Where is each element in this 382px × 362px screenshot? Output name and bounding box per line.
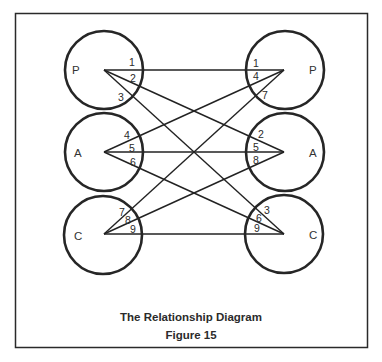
- right-number-7: 7: [262, 89, 268, 101]
- left-number-1: 1: [129, 56, 135, 68]
- right-number-1: 1: [253, 57, 259, 69]
- right-number-4: 4: [253, 70, 259, 82]
- left-number-6: 6: [130, 156, 136, 168]
- left-number-4: 4: [124, 129, 130, 141]
- right-node-P: P 1 4 7: [246, 31, 324, 109]
- left-node-label-C: C: [74, 230, 82, 242]
- left-number-9: 9: [130, 223, 136, 235]
- right-node-label-C: C: [309, 229, 317, 241]
- left-node-C: C 7 8 9: [64, 196, 142, 274]
- right-number-5: 5: [253, 141, 259, 153]
- figure-number: Figure 15: [0, 329, 382, 341]
- right-number-3: 3: [264, 204, 270, 216]
- relationship-diagram: P 1 2 3 A 4 5 6 C 7 8 9 P 1 4 7 A 2 5 8 …: [0, 0, 382, 362]
- right-number-8: 8: [253, 154, 259, 166]
- right-number-9: 9: [254, 222, 260, 234]
- diagram-title: The Relationship Diagram: [0, 311, 382, 323]
- left-number-5: 5: [129, 142, 135, 154]
- left-node-label-A: A: [74, 147, 82, 159]
- left-number-3: 3: [118, 91, 124, 103]
- right-number-2: 2: [258, 128, 264, 140]
- right-node-A: A 2 5 8: [246, 113, 324, 191]
- right-node-label-P: P: [309, 64, 317, 76]
- left-number-2: 2: [130, 72, 136, 84]
- left-node-label-P: P: [72, 64, 80, 76]
- right-node-label-A: A: [309, 147, 317, 159]
